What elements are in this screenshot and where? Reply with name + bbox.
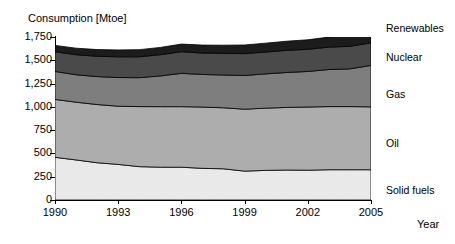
- plot-area: [55, 37, 371, 200]
- legend-label-nuclear: Nuclear: [386, 51, 422, 63]
- x-axis-tick-label: 1990: [35, 206, 75, 218]
- y-axis-tick-mark: [50, 107, 55, 108]
- y-axis-tick-mark: [50, 200, 55, 201]
- legend-label-gas: Gas: [386, 88, 405, 100]
- x-axis-tick-label: 2002: [288, 206, 328, 218]
- x-axis-tick-label: 1996: [161, 206, 201, 218]
- y-axis-tick-mark: [50, 153, 55, 154]
- x-axis-tick-label: 2005: [351, 206, 391, 218]
- y-axis-tick-mark: [50, 177, 55, 178]
- legend-label-oil: Oil: [386, 137, 399, 149]
- stacked-area-chart: Consumption [Mtoe] Year 1,7501,5001,2501…: [0, 0, 455, 244]
- y-axis-tick-mark: [50, 84, 55, 85]
- legend-label-renewables: Renewables: [386, 22, 444, 34]
- area-series-svg: [55, 37, 371, 200]
- area-band-oil: [55, 99, 371, 171]
- x-axis-line: [55, 200, 372, 201]
- legend-label-solid-fuels: Solid fuels: [386, 184, 434, 196]
- y-axis-tick-mark: [50, 37, 55, 38]
- y-axis-tick-mark: [50, 130, 55, 131]
- x-axis-tick-label: 1993: [98, 206, 138, 218]
- y-axis-tick-mark: [50, 60, 55, 61]
- x-axis-tick-label: 1999: [225, 206, 265, 218]
